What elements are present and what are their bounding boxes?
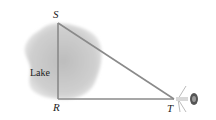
point-label-S: S [53,9,59,20]
point-label-R: R [53,102,60,113]
diagram-canvas [0,0,216,120]
lake-label: Lake [30,68,50,78]
transit-instrument-icon [176,86,198,112]
lake-shape [25,23,102,99]
point-label-T: T [167,103,173,114]
